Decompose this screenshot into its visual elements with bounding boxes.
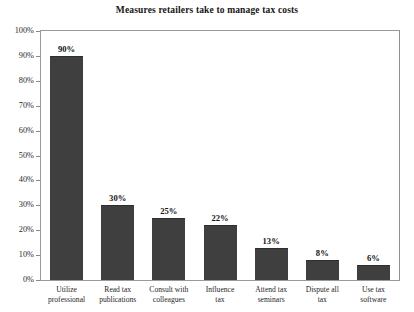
- bar-value-label: 25%: [142, 206, 195, 216]
- x-axis-category-line: professional: [41, 295, 92, 305]
- bar[interactable]: [255, 248, 288, 280]
- bar-group[interactable]: 25%: [152, 31, 185, 280]
- bar[interactable]: [101, 205, 134, 280]
- y-axis-tick-label: 30%: [19, 199, 34, 210]
- bar[interactable]: [204, 225, 237, 280]
- x-axis-category-line: tax: [297, 295, 348, 305]
- y-axis-tick-label: 40%: [19, 174, 34, 185]
- y-axis-tick-label: 0%: [23, 274, 34, 285]
- x-axis-category-label: Utilizeprofessional: [41, 285, 92, 304]
- x-axis-category-line: Influence: [194, 285, 245, 295]
- bar-value-label: 30%: [91, 193, 144, 203]
- x-axis-category-line: tax: [194, 295, 245, 305]
- x-axis-labels: UtilizeprofessionalRead taxpublicationsC…: [41, 285, 399, 312]
- x-axis-category-line: seminars: [246, 295, 297, 305]
- bar-group[interactable]: 90%: [50, 31, 83, 280]
- x-axis-category-line: Use tax: [348, 285, 399, 295]
- bar-value-label: 6%: [347, 253, 400, 263]
- y-axis-tick-label: 60%: [19, 125, 34, 136]
- bar[interactable]: [152, 218, 185, 280]
- x-axis-category-line: colleagues: [143, 295, 194, 305]
- y-axis-tick-label: 20%: [19, 224, 34, 235]
- x-axis-category-line: Utilize: [41, 285, 92, 295]
- bar[interactable]: [50, 56, 83, 280]
- x-axis-category-label: Consult withcolleagues: [143, 285, 194, 304]
- bar[interactable]: [306, 260, 339, 280]
- bar-group[interactable]: 13%: [255, 31, 288, 280]
- x-axis-category-label: Attend taxseminars: [246, 285, 297, 304]
- y-axis-tick-label: 100%: [15, 25, 34, 36]
- y-axis: 100%90%80%70%60%50%40%30%20%10%0%: [0, 30, 40, 281]
- y-axis-tick-label: 50%: [19, 150, 34, 161]
- x-axis-category-line: Dispute all: [297, 285, 348, 295]
- x-axis-category-line: Consult with: [143, 285, 194, 295]
- x-axis-category-line: software: [348, 295, 399, 305]
- x-axis-category-label: Dispute alltax: [297, 285, 348, 304]
- bar-value-label: 22%: [194, 213, 247, 223]
- y-axis-tick-label: 90%: [19, 50, 34, 61]
- x-axis-category-line: publications: [92, 295, 143, 305]
- bar-group[interactable]: 8%: [306, 31, 339, 280]
- bar-group[interactable]: 22%: [204, 31, 237, 280]
- x-axis-category-label: Use taxsoftware: [348, 285, 399, 304]
- x-axis-category-label: Read taxpublications: [92, 285, 143, 304]
- bar-chart: Measures retailers take to manage tax co…: [0, 0, 414, 312]
- y-axis-tick-label: 70%: [19, 100, 34, 111]
- plot-area: 90%30%25%22%13%8%6%: [40, 30, 400, 281]
- bar[interactable]: [357, 265, 390, 280]
- bar-value-label: 8%: [296, 248, 349, 258]
- x-axis-category-line: Attend tax: [246, 285, 297, 295]
- bar-value-label: 90%: [40, 44, 93, 54]
- chart-title: Measures retailers take to manage tax co…: [0, 5, 414, 15]
- bar-group[interactable]: 30%: [101, 31, 134, 280]
- bar-group[interactable]: 6%: [357, 31, 390, 280]
- bars-layer: 90%30%25%22%13%8%6%: [41, 31, 399, 280]
- y-axis-tick-label: 10%: [19, 249, 34, 260]
- x-axis-category-label: Influencetax: [194, 285, 245, 304]
- x-axis-category-line: Read tax: [92, 285, 143, 295]
- bar-value-label: 13%: [245, 236, 298, 246]
- y-axis-tick-label: 80%: [19, 75, 34, 86]
